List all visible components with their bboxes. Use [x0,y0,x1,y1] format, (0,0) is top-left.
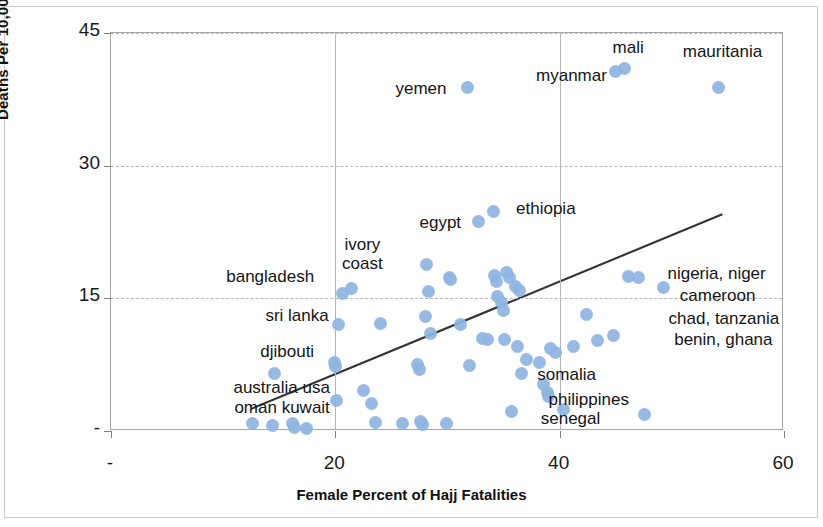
data-point[interactable] [416,418,429,431]
data-point[interactable] [632,271,645,284]
point-label: mauritania [683,42,762,61]
x-tick-label: 60 [743,452,823,474]
point-label: yemen [395,79,446,98]
y-tick-label: 15 [38,284,100,306]
point-label: sri lanka [265,306,328,325]
point-label: coast [342,254,383,273]
y-gridline [111,33,782,34]
point-label: ivory [344,235,380,254]
x-tick-mark [560,431,561,438]
point-label: benin, ghana [674,330,772,349]
data-point[interactable] [413,363,426,376]
data-point[interactable] [300,422,313,435]
data-point[interactable] [515,367,528,380]
data-point[interactable] [345,282,358,295]
data-point[interactable] [246,417,259,430]
y-tick-label: 45 [38,19,100,41]
data-point[interactable] [497,304,510,317]
data-point[interactable] [580,308,593,321]
point-label: djibouti [260,342,314,361]
data-point[interactable] [329,360,342,373]
point-label: ethiopia [516,199,576,218]
point-label: chad, tanzania [669,309,780,328]
data-point[interactable] [422,285,435,298]
point-label: senegal [541,409,601,428]
data-point[interactable] [712,81,725,94]
data-point[interactable] [440,417,453,430]
point-label: bangladesh [226,267,314,286]
y-gridline [111,166,782,167]
data-point[interactable] [365,397,378,410]
y-tick-mark [104,431,111,432]
data-point[interactable] [511,340,524,353]
x-tick-label: - [70,452,150,474]
data-point[interactable] [472,215,485,228]
data-point[interactable] [618,62,631,75]
data-point[interactable] [461,81,474,94]
data-point[interactable] [419,310,432,323]
data-point[interactable] [513,284,526,297]
point-label: australia usa [233,378,329,397]
data-point[interactable] [567,340,580,353]
data-point[interactable] [396,417,409,430]
data-point[interactable] [520,353,533,366]
data-point[interactable] [591,334,604,347]
point-label: myanmar [536,66,607,85]
data-point[interactable] [607,329,620,342]
y-axis-title: Deaths Per 10,000 Hajjis [0,0,11,120]
y-tick-mark [104,33,111,34]
data-point[interactable] [505,405,518,418]
point-label: philippines [549,390,629,409]
x-tick-mark [111,431,112,438]
x-tick-label: 20 [294,452,374,474]
data-point[interactable] [498,333,511,346]
point-label: oman kuwait [234,398,329,417]
point-label: somalia [537,365,596,384]
data-point[interactable] [454,318,467,331]
point-label: nigeria, niger [667,264,765,283]
y-tick-label: 30 [38,152,100,174]
data-point[interactable] [481,333,494,346]
data-point[interactable] [424,327,437,340]
x-tick-label: 40 [519,452,599,474]
x-tick-mark [335,431,336,438]
data-point[interactable] [444,273,457,286]
data-point[interactable] [420,258,433,271]
data-point[interactable] [374,317,387,330]
point-label: egypt [419,213,461,232]
point-label: cameroon [680,286,756,305]
chart-screenshot: Deaths Per 10,000 Hajjis Female Percent … [0,0,823,527]
x-axis-title: Female Percent of Hajj Fatalities [0,486,823,503]
y-tick-label: - [38,417,100,439]
data-point[interactable] [487,205,500,218]
x-tick-mark [784,431,785,438]
data-point[interactable] [330,394,343,407]
y-tick-mark [104,298,111,299]
data-point[interactable] [638,408,651,421]
data-point[interactable] [463,359,476,372]
data-point[interactable] [549,346,562,359]
point-label: mali [613,38,644,57]
data-point[interactable] [357,384,370,397]
data-point[interactable] [332,318,345,331]
y-tick-mark [104,166,111,167]
data-point[interactable] [369,416,382,429]
